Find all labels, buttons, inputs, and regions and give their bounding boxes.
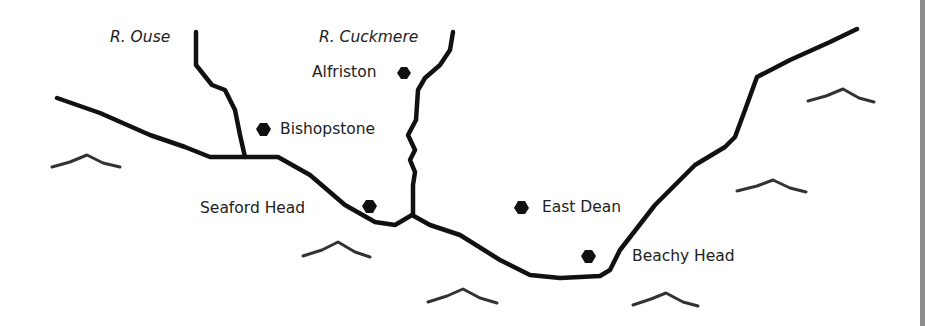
place-dot-icon: [397, 67, 411, 79]
place-label-beachy-head: Beachy Head: [632, 249, 735, 265]
place-dot-icon: [256, 123, 271, 136]
river-cuckmere: [408, 32, 453, 215]
place-label-alfriston: Alfriston: [312, 65, 377, 81]
coastline: [57, 29, 857, 278]
place-label-east-dean: East Dean: [542, 200, 621, 216]
place-label-seaford-head: Seaford Head: [200, 201, 305, 217]
right-border: [920, 0, 925, 326]
wave-icon: [737, 180, 806, 192]
river-ouse: [196, 32, 245, 157]
wave-icon: [52, 155, 120, 167]
map-drawing: [0, 0, 925, 326]
wave-icon: [808, 89, 874, 102]
place-label-bishopstone: Bishopstone: [280, 122, 375, 138]
wave-icon: [303, 242, 370, 257]
river-label-cuckmere: R. Cuckmere: [319, 30, 418, 46]
place-dot-icon: [581, 250, 596, 263]
map-canvas: R. Ouse R. Cuckmere Alfriston Bishopston…: [0, 0, 925, 326]
wave-icon: [633, 293, 698, 306]
wave-icon: [428, 289, 497, 303]
place-dot-icon: [362, 200, 377, 213]
river-label-ouse: R. Ouse: [110, 30, 170, 46]
place-dot-icon: [514, 201, 529, 214]
